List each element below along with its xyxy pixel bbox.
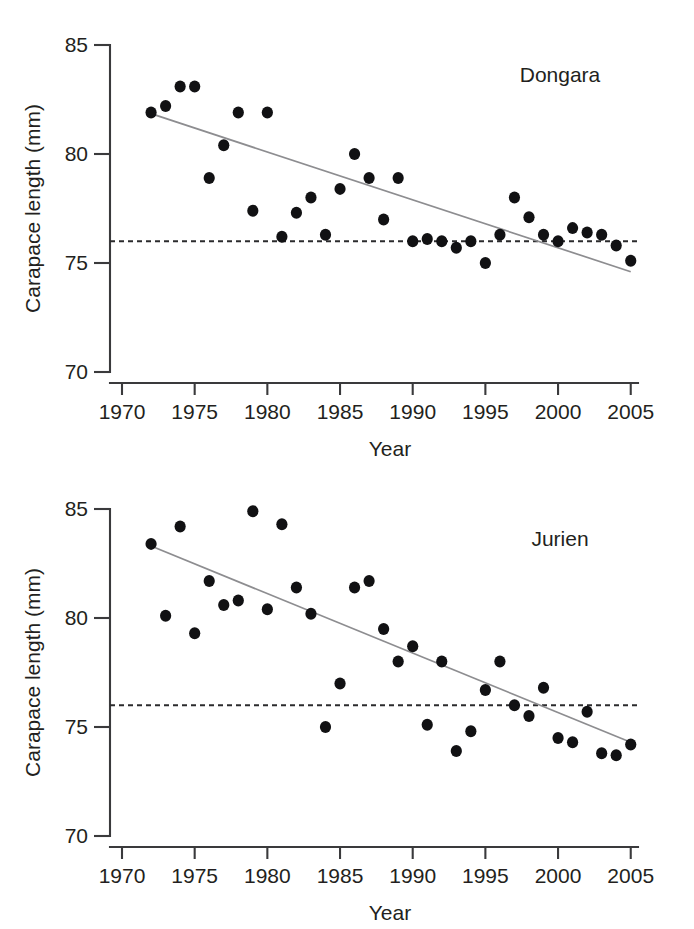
data-point	[189, 627, 200, 639]
data-point	[364, 172, 375, 184]
data-point	[378, 623, 389, 635]
data-point	[611, 749, 622, 761]
figure-scatter-panels: 7075808519701975198019851990199520002005…	[0, 0, 694, 929]
data-point	[218, 139, 229, 151]
chart-panel-jurien: 7075808519701975198019851990199520002005…	[0, 464, 694, 929]
x-tick-label: 1980	[244, 864, 291, 887]
data-point	[538, 229, 549, 241]
x-tick-label: 1985	[317, 864, 364, 887]
chart-svg: 7075808519701975198019851990199520002005…	[0, 0, 694, 465]
y-tick-label: 70	[65, 824, 88, 847]
y-tick-label: 80	[65, 606, 88, 629]
data-point	[494, 229, 505, 241]
data-point	[204, 172, 215, 184]
data-point	[523, 710, 534, 722]
data-point	[305, 608, 316, 620]
data-point	[233, 107, 244, 119]
data-point	[247, 205, 258, 217]
y-tick-label: 75	[65, 715, 88, 738]
x-tick-label: 1990	[389, 400, 436, 423]
data-point	[480, 684, 491, 696]
data-point	[349, 148, 360, 160]
data-point	[451, 745, 462, 757]
data-point	[364, 575, 375, 587]
x-tick-label: 2000	[535, 400, 582, 423]
data-point	[276, 518, 287, 530]
data-point	[625, 738, 636, 750]
y-tick-label: 85	[65, 33, 88, 56]
data-point	[320, 721, 331, 733]
data-point	[145, 107, 156, 119]
data-point	[145, 538, 156, 550]
data-point	[204, 575, 215, 587]
data-point	[233, 595, 244, 607]
x-tick-label: 1990	[389, 864, 436, 887]
data-point	[262, 603, 273, 615]
y-axis-title: Carapace length (mm)	[21, 568, 44, 777]
data-point	[262, 107, 273, 119]
y-tick-label: 75	[65, 251, 88, 274]
data-point	[305, 192, 316, 204]
data-point	[451, 242, 462, 254]
data-point	[436, 235, 447, 247]
data-point	[582, 706, 593, 718]
data-point	[291, 207, 302, 219]
data-point	[436, 656, 447, 668]
x-tick-label: 2000	[535, 864, 582, 887]
x-tick-label: 2005	[607, 400, 654, 423]
data-point	[523, 211, 534, 223]
chart-panel-dongara: 7075808519701975198019851990199520002005…	[0, 0, 694, 465]
data-point	[596, 747, 607, 759]
data-point	[538, 682, 549, 694]
data-point	[407, 235, 418, 247]
data-point	[160, 100, 171, 112]
y-tick-label: 85	[65, 497, 88, 520]
data-point	[509, 699, 520, 711]
data-point	[422, 233, 433, 245]
x-tick-label: 1995	[462, 864, 509, 887]
data-point	[567, 222, 578, 234]
data-point	[509, 192, 520, 204]
data-point	[582, 226, 593, 238]
panel-title: Dongara	[520, 63, 601, 86]
data-point	[276, 231, 287, 243]
data-point	[247, 505, 258, 517]
data-point	[218, 599, 229, 611]
data-point	[552, 732, 563, 744]
data-point	[378, 213, 389, 225]
data-point	[334, 677, 345, 689]
x-tick-label: 1970	[99, 864, 146, 887]
x-tick-label: 1985	[317, 400, 364, 423]
data-point	[407, 640, 418, 652]
data-point	[552, 235, 563, 247]
data-point	[175, 80, 186, 92]
y-axis-title: Carapace length (mm)	[21, 104, 44, 313]
data-point	[567, 736, 578, 748]
x-axis-title: Year	[369, 901, 411, 924]
x-tick-label: 1980	[244, 400, 291, 423]
x-tick-label: 1970	[99, 400, 146, 423]
trend-line	[151, 546, 631, 742]
data-point	[189, 80, 200, 92]
x-tick-label: 1975	[171, 400, 218, 423]
y-tick-label: 70	[65, 360, 88, 383]
x-tick-label: 2005	[607, 864, 654, 887]
data-point	[320, 229, 331, 241]
data-point	[465, 235, 476, 247]
data-point	[334, 183, 345, 195]
data-point	[611, 240, 622, 252]
y-tick-label: 80	[65, 142, 88, 165]
data-point	[349, 581, 360, 593]
x-tick-label: 1975	[171, 864, 218, 887]
data-point	[175, 520, 186, 532]
panel-title: Jurien	[531, 527, 588, 550]
x-tick-label: 1995	[462, 400, 509, 423]
data-point	[596, 229, 607, 241]
data-point	[465, 725, 476, 737]
data-point	[393, 172, 404, 184]
chart-svg: 7075808519701975198019851990199520002005…	[0, 464, 694, 929]
data-point	[393, 656, 404, 668]
data-point	[625, 255, 636, 267]
trend-line	[151, 114, 631, 272]
data-point	[160, 610, 171, 622]
